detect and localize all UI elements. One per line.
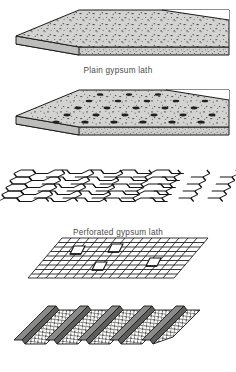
panel-diamond-mesh-metal-lath: Diamond mesh metal lath	[0, 164, 236, 216]
panel-rib-expanded-metal-lath: Rib-expanded metal lath	[0, 302, 236, 352]
lath-types-figure: Plain gypsum lath	[0, 0, 236, 372]
self-furring-metal-lath-illustration	[0, 234, 236, 286]
panel-perforated-gypsum-lath: Perforated gypsum lath	[0, 82, 236, 144]
diamond-mesh-grid	[0, 170, 236, 202]
rib-units	[14, 306, 200, 344]
perforated-gypsum-lath-illustration	[0, 82, 236, 144]
panel-self-furring-metal-lath: Self-furring metal lath	[0, 234, 236, 286]
furring-dimple-shadows	[70, 252, 157, 270]
rib-expanded-metal-lath-illustration	[0, 302, 236, 352]
diamond-mesh-metal-lath-illustration	[0, 164, 236, 216]
panel-plain-gypsum-lath: Plain gypsum lath	[0, 0, 236, 64]
plain-gypsum-lath-illustration	[0, 0, 236, 64]
self-furring-mesh-grid	[28, 238, 208, 278]
caption-plain-gypsum-lath: Plain gypsum lath	[0, 66, 236, 75]
